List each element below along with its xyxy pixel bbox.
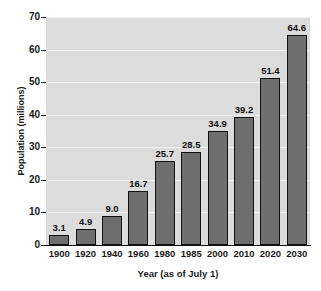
x-axis-tick-label: 2030 xyxy=(284,248,310,260)
y-axis-tick-label: 10 xyxy=(4,207,40,217)
x-axis-tick-label: 2000 xyxy=(204,248,230,260)
bar-value-label: 16.7 xyxy=(125,179,151,189)
bar-value-label: 64.6 xyxy=(284,23,310,33)
y-axis-tick-labels: 010203040506070 xyxy=(0,0,40,291)
x-axis-tick-label: 1985 xyxy=(178,248,204,260)
x-axis-tick-label: 2020 xyxy=(257,248,283,260)
bar-value-label: 51.4 xyxy=(257,66,283,76)
x-axis-tick-label: 1900 xyxy=(46,248,72,260)
y-axis-tick-label: 70 xyxy=(4,12,40,22)
y-axis-tick-label: 50 xyxy=(4,77,40,87)
x-axis-tick-labels: 1900192019401960198019852000201020202030 xyxy=(46,248,310,262)
x-axis-title: Year (as of July 1) xyxy=(46,268,310,279)
bar-chart-figure: Population (millions) 010203040506070 3.… xyxy=(0,0,321,291)
y-axis-tick-label: 40 xyxy=(4,110,40,120)
bar-value-label: 3.1 xyxy=(46,223,72,233)
y-axis-tick-label: 60 xyxy=(4,45,40,55)
x-axis-tick-label: 1980 xyxy=(152,248,178,260)
bar-value-label: 9.0 xyxy=(99,204,125,214)
bar-value-label: 39.2 xyxy=(231,105,257,115)
y-axis-tick-label: 0 xyxy=(4,240,40,250)
x-axis-tick-label: 1960 xyxy=(125,248,151,260)
bar-value-label: 4.9 xyxy=(72,217,98,227)
bar-value-labels: 3.14.99.016.725.728.534.939.251.464.6 xyxy=(46,17,310,245)
bar-value-label: 34.9 xyxy=(204,119,230,129)
x-axis-tick-label: 1920 xyxy=(72,248,98,260)
x-axis-tick-label: 1940 xyxy=(99,248,125,260)
bar-value-label: 25.7 xyxy=(152,149,178,159)
bar-value-label: 28.5 xyxy=(178,140,204,150)
y-axis-tick-label: 20 xyxy=(4,175,40,185)
x-axis-line xyxy=(41,245,311,246)
y-axis-tick-label: 30 xyxy=(4,142,40,152)
x-axis-tick-label: 2010 xyxy=(231,248,257,260)
